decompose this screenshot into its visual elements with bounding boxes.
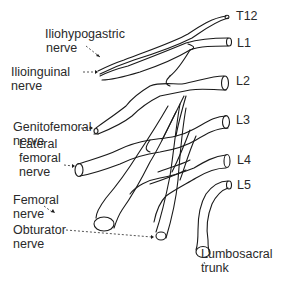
l3-root-nerve xyxy=(75,116,230,177)
label-iliohypogastric-nerve: Iliohypogastric nerve xyxy=(45,27,125,55)
root-label-l3: L3 xyxy=(236,113,250,127)
root-label-t12: T12 xyxy=(236,9,258,23)
root-label-l5: L5 xyxy=(237,178,251,192)
label-femoral-nerve: Femoral nerve xyxy=(13,193,59,221)
label-lumbosacral-trunk: Lumbosacral trunk xyxy=(201,247,273,275)
plexus-branches xyxy=(150,96,196,184)
lateral-femoral-leader xyxy=(64,165,73,166)
obturator-leader xyxy=(66,230,152,237)
root-label-l4: L4 xyxy=(237,153,251,167)
root-label-l2: L2 xyxy=(236,74,250,88)
root-label-l1: L1 xyxy=(237,36,251,50)
label-lateral-femoral-nerve: Lateral femoral nerve xyxy=(19,137,61,179)
l2-root-nerve xyxy=(94,76,229,134)
label-ilioinguinal-nerve: Ilioinguinal nerve xyxy=(11,65,70,93)
label-obturator-nerve: Obturator nerve xyxy=(13,223,66,251)
